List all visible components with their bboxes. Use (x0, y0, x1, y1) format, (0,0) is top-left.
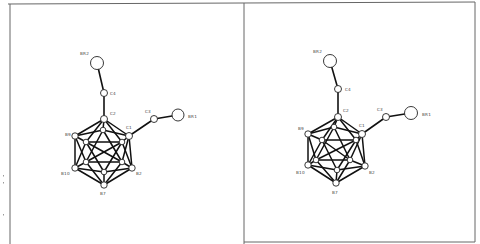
atom-label-b2: B2 (136, 171, 142, 176)
atom-b2 (129, 165, 135, 171)
atom-b2 (362, 163, 368, 169)
left-stereo-view: BR2C4C2C3BR1C1B9B10B2B7 (61, 51, 197, 196)
atom-label-c4: C4 (110, 91, 116, 96)
atom-c3 (383, 114, 390, 121)
atom-b7 (333, 180, 339, 186)
atom-i5 (119, 159, 125, 165)
atom-c4 (335, 86, 342, 93)
atom-i1 (331, 124, 337, 130)
atom-i2 (83, 139, 89, 145)
atom-c2 (101, 116, 108, 123)
atom-c1 (359, 131, 366, 138)
atom-label-b2: B2 (369, 170, 375, 175)
atom-i5 (347, 157, 353, 163)
atom-label-b7: B7 (332, 190, 338, 195)
margin-marks (3, 175, 4, 216)
atom-label-br1: BR1 (188, 114, 197, 119)
atom-b10 (72, 165, 78, 171)
atom-label-c1: C1 (359, 123, 365, 128)
margin-mark (3, 182, 4, 184)
atom-i1 (100, 127, 106, 133)
atom-b9 (305, 131, 311, 137)
atom-label-c3: C3 (145, 109, 151, 114)
atom-c1 (126, 133, 133, 140)
figure-frame (8, 2, 475, 244)
atom-br1 (405, 107, 418, 120)
bond-b9-i4 (308, 134, 316, 160)
atom-label-c1: C1 (126, 125, 132, 130)
atom-label-b10: B10 (296, 170, 305, 175)
margin-mark (3, 175, 4, 177)
atom-label-br2: BR2 (80, 51, 89, 56)
atom-i6 (101, 169, 107, 175)
label-layer: BR2C4C2C3BR1C1B9B10B2B7 (296, 49, 431, 195)
atom-i3 (119, 139, 125, 145)
atom-label-br1: BR1 (422, 112, 431, 117)
atom-br1 (172, 109, 184, 121)
bond-c1-c3 (129, 119, 154, 136)
atom-i2 (319, 137, 325, 143)
frame-top-line (8, 2, 475, 4)
atom-b10 (305, 162, 311, 168)
bond-c1-c3 (362, 117, 386, 134)
right-stereo-view: BR2C4C2C3BR1C1B9B10B2B7 (296, 49, 431, 195)
atom-label-c2: C2 (343, 108, 349, 113)
atom-br2 (324, 55, 337, 68)
atom-label-br2: BR2 (313, 49, 322, 54)
atom-c4 (101, 90, 108, 97)
atom-label-b7: B7 (100, 191, 106, 196)
bond-layer (75, 63, 178, 185)
label-layer: BR2C4C2C3BR1C1B9B10B2B7 (61, 51, 197, 196)
margin-mark (3, 214, 4, 216)
atom-b9 (72, 133, 78, 139)
atom-i4 (313, 157, 319, 163)
atom-i4 (83, 159, 89, 165)
atom-c3 (151, 116, 158, 123)
atom-label-b9: B9 (298, 126, 304, 131)
atom-label-c4: C4 (345, 87, 351, 92)
atom-label-b10: B10 (61, 171, 70, 176)
stereo-diagram: BR2C4C2C3BR1C1B9B10B2B7 BR2C4C2C3BR1C1B9… (0, 0, 480, 244)
bond-layer (308, 61, 411, 183)
atom-i6 (334, 167, 340, 173)
atom-i3 (353, 137, 359, 143)
atom-label-c3: C3 (377, 107, 383, 112)
atom-br2 (91, 57, 104, 70)
atom-label-c2: C2 (110, 111, 116, 116)
atom-b7 (101, 182, 107, 188)
atom-c2 (335, 114, 342, 121)
atom-label-b9: B9 (65, 132, 71, 137)
